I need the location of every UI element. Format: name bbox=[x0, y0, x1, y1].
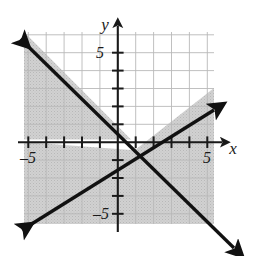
x-tick-label-neg-five: –5 bbox=[19, 149, 36, 166]
y-tick-label-pos-five: 5 bbox=[96, 44, 104, 61]
y-axis-label: y bbox=[99, 15, 109, 34]
graph-figure: y x –5 5 5 –5 bbox=[0, 0, 254, 256]
x-axis-label: x bbox=[228, 139, 237, 158]
x-tick-label-pos-five: 5 bbox=[203, 149, 211, 166]
y-tick-label-neg-five: –5 bbox=[92, 205, 109, 222]
coordinate-plane: y x –5 5 5 –5 bbox=[0, 0, 254, 256]
